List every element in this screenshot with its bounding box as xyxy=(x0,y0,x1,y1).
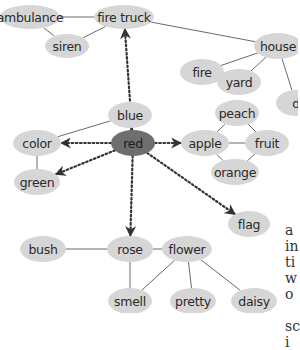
arrow-red-to-green xyxy=(56,150,115,174)
node-label: red xyxy=(123,136,143,151)
node-ambulance: ambulance xyxy=(0,5,64,29)
edge-ambulance-siren xyxy=(44,28,55,36)
node-blue: blue xyxy=(108,102,152,128)
node-peach: peach xyxy=(215,100,259,126)
node-label: flower xyxy=(169,242,207,257)
node-label: rose xyxy=(117,242,143,257)
edge-orange-fruit xyxy=(247,154,255,161)
side-text-line: ti xyxy=(285,254,300,270)
arrow-red-to-rose xyxy=(130,156,132,236)
nodes-layer: ambulancefire trucksirenhousefireyarddpe… xyxy=(0,5,298,313)
edge-apple-orange xyxy=(217,154,224,160)
node-orange: orange xyxy=(211,159,259,185)
node-label: d xyxy=(292,96,298,111)
node-label: color xyxy=(22,136,52,151)
node-daisy: daisy xyxy=(231,288,277,313)
node-pretty: pretty xyxy=(170,288,216,313)
edge-house-fire xyxy=(221,53,258,66)
side-text-line: w xyxy=(285,270,300,286)
node-label: pretty xyxy=(175,294,212,309)
node-yard: yard xyxy=(217,69,261,95)
side-text-line: sc xyxy=(285,318,300,334)
edge-house-d_partial xyxy=(282,59,292,90)
node-bush: bush xyxy=(20,236,66,262)
node-flag: flag xyxy=(228,211,270,237)
edge-blue-color xyxy=(58,121,110,137)
edge-flower-daisy xyxy=(201,260,241,291)
node-smell: smell xyxy=(108,288,152,313)
edge-siren-fire_truck xyxy=(83,26,105,37)
node-label: house xyxy=(260,39,297,54)
node-label: fruit xyxy=(255,136,280,151)
node-rose: rose xyxy=(107,236,153,262)
edge-house-yard xyxy=(251,57,266,71)
node-flower: flower xyxy=(162,236,212,262)
node-label: fire truck xyxy=(97,10,152,25)
node-d-partial: d xyxy=(276,90,298,116)
cropped-side-text: aintiwo sci xyxy=(285,222,300,350)
node-siren: siren xyxy=(45,34,89,58)
node-label: flag xyxy=(238,217,260,232)
node-green: green xyxy=(14,169,60,195)
node-fruit: fruit xyxy=(245,130,289,156)
node-color: color xyxy=(13,130,61,156)
node-label: apple xyxy=(188,136,222,151)
edge-peach-fruit xyxy=(248,124,256,132)
edge-flower-pretty xyxy=(188,262,191,288)
node-red: red xyxy=(111,130,155,156)
side-text-line: a xyxy=(285,222,300,238)
edge-peach-apple xyxy=(217,124,225,132)
node-label: ambulance xyxy=(0,10,64,25)
node-label: daisy xyxy=(238,294,270,309)
node-label: green xyxy=(20,175,55,190)
side-text-line: in xyxy=(285,238,300,254)
side-text-line xyxy=(285,302,300,318)
node-fire-truck: fire truck xyxy=(94,5,154,29)
node-label: yard xyxy=(226,75,253,90)
node-apple: apple xyxy=(181,130,229,156)
node-house: house xyxy=(254,33,298,59)
node-label: blue xyxy=(117,108,143,123)
node-label: fire xyxy=(192,65,212,80)
edge-flower-smell xyxy=(142,260,175,290)
side-text-line: o xyxy=(285,286,300,302)
node-label: siren xyxy=(53,39,82,54)
side-text-line: i xyxy=(285,334,300,350)
node-label: orange xyxy=(214,165,257,180)
node-label: bush xyxy=(28,242,57,257)
node-label: peach xyxy=(219,106,256,121)
edge-fire_truck-house xyxy=(151,22,255,42)
node-label: smell xyxy=(114,294,146,309)
